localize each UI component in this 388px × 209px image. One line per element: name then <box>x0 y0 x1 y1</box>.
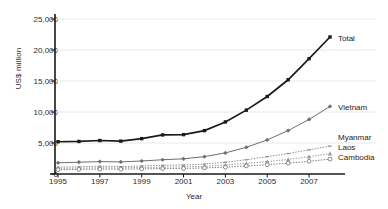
data-point-marker <box>119 167 123 171</box>
data-point-marker <box>140 137 143 140</box>
axes <box>50 14 345 178</box>
data-point-marker <box>328 151 332 155</box>
series-line <box>58 37 330 142</box>
data-point-marker <box>328 157 332 161</box>
data-point-marker <box>223 165 227 169</box>
data-point-marker <box>98 167 102 171</box>
data-point-marker <box>286 157 290 161</box>
data-point-marker <box>266 95 269 98</box>
data-point-marker <box>182 167 186 171</box>
data-point-marker <box>161 133 164 136</box>
data-point-marker <box>265 138 269 142</box>
data-point-marker <box>286 129 290 133</box>
series-line <box>58 106 330 162</box>
data-point-marker <box>119 160 123 164</box>
data-point-marker <box>181 157 185 161</box>
data-point-marker <box>265 163 269 167</box>
data-point-marker <box>307 159 311 163</box>
data-point-marker <box>245 108 248 111</box>
data-point-marker <box>244 145 248 149</box>
data-point-marker <box>286 161 290 165</box>
data-point-marker <box>328 35 331 38</box>
data-point-marker <box>56 161 60 165</box>
data-point-marker <box>286 78 289 81</box>
data-point-marker <box>119 139 122 142</box>
data-point-marker <box>182 133 185 136</box>
data-point-marker <box>244 164 248 168</box>
data-point-marker <box>202 155 206 159</box>
data-point-marker <box>223 151 227 155</box>
data-point-marker <box>56 168 60 172</box>
data-point-marker <box>161 158 165 162</box>
data-point-marker <box>203 129 206 132</box>
data-point-marker <box>140 167 144 171</box>
series-vietnam <box>56 104 332 165</box>
data-point-marker <box>98 160 102 164</box>
data-point-marker <box>161 167 165 171</box>
data-point-marker <box>77 140 80 143</box>
data-point-marker <box>140 159 144 163</box>
data-point-marker <box>203 166 207 170</box>
data-point-marker <box>56 140 59 143</box>
series-laos <box>56 151 332 170</box>
line-chart: US$ million Year 05,00010,00015,00020,00… <box>0 0 388 209</box>
gridlines <box>56 19 376 143</box>
data-point-marker <box>224 120 227 123</box>
plot-area <box>0 0 388 209</box>
data-point-marker <box>77 160 81 164</box>
data-point-marker <box>98 139 101 142</box>
data-point-marker <box>77 167 81 171</box>
series-total <box>56 35 331 143</box>
data-point-marker <box>307 57 310 60</box>
